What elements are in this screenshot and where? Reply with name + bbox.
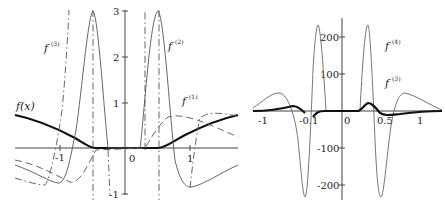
svg-text:(4): (4) — [392, 38, 401, 45]
right-xtick-0: 0 — [344, 115, 350, 126]
left-series-f2 — [15, 11, 238, 187]
right-label-f3: f — [384, 77, 391, 90]
right-xtick-0-5: 0.5 — [377, 115, 393, 126]
left-xtick-0: 0 — [129, 153, 135, 164]
left-label-f3: f — [43, 42, 50, 55]
svg-text:(2): (2) — [175, 38, 184, 45]
right-label-f4: f — [384, 40, 391, 53]
figure: 3 2 1 -1 -1 0 1 f(x) f (3) f (2) f (1) — [0, 0, 445, 210]
right-xtick-neg0-1: -0.1 — [299, 115, 318, 126]
left-label-f1: f — [181, 95, 188, 108]
svg-text:(3): (3) — [392, 75, 401, 82]
right-ytick-200: 200 — [320, 32, 339, 43]
left-ytick-3: 3 — [113, 6, 119, 17]
left-series-f — [15, 115, 238, 148]
right-chart: 200 100 -100 -200 -1 -0.1 0 0.5 1 f (4) … — [253, 18, 442, 200]
left-ytick-1: 1 — [113, 98, 119, 109]
svg-text:(1): (1) — [189, 93, 198, 100]
left-chart: 3 2 1 -1 -1 0 1 f(x) f (3) f (2) f (1) — [15, 6, 238, 200]
right-xtick-1: 1 — [417, 115, 423, 126]
left-label-f: f(x) — [15, 100, 35, 113]
left-xtick-neg1: -1 — [55, 152, 65, 163]
left-label-f2: f — [167, 40, 174, 53]
right-ytick-neg200: -200 — [317, 180, 339, 191]
right-xtick-neg1: -1 — [258, 115, 268, 126]
right-ytick-neg100: -100 — [317, 143, 339, 154]
left-ytick-neg1: -1 — [109, 189, 119, 200]
svg-text:(3): (3) — [51, 40, 60, 47]
left-xtick-1: 1 — [187, 153, 193, 164]
right-ytick-100: 100 — [320, 69, 339, 80]
left-ytick-2: 2 — [113, 52, 119, 63]
